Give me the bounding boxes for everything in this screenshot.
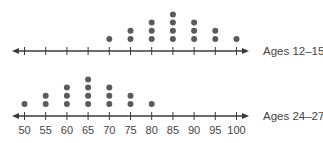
data-dot <box>170 28 176 34</box>
data-dot <box>85 76 91 82</box>
data-dot <box>149 36 155 42</box>
data-dot <box>170 11 176 17</box>
left-arrow-icon <box>12 48 19 54</box>
data-dot <box>64 85 70 91</box>
tick-label: 70 <box>103 124 115 136</box>
data-dot <box>128 101 134 107</box>
data-dot <box>106 93 112 99</box>
data-dot <box>191 20 197 26</box>
data-dot <box>212 28 218 34</box>
right-arrow-icon <box>242 113 249 119</box>
data-dot <box>170 36 176 42</box>
tick-label: 80 <box>146 124 158 136</box>
tick-label: 55 <box>40 124 52 136</box>
data-dot <box>106 36 112 42</box>
data-dot <box>191 36 197 42</box>
series-label: Ages 12–15 <box>263 45 323 57</box>
tick-label: 65 <box>82 124 94 136</box>
series-label: Ages 24–27 <box>263 110 323 122</box>
tick-label: 90 <box>188 124 200 136</box>
data-dot <box>43 93 49 99</box>
data-dot <box>149 20 155 26</box>
dot-plot-ages-24-27: Ages 24–27 <box>12 76 323 122</box>
tick-label: 100 <box>227 124 245 136</box>
data-dot <box>64 101 70 107</box>
data-dot <box>128 28 134 34</box>
dot-plot-chart: Ages 12–15Ages 24–2750556065707580859095… <box>0 0 323 143</box>
right-arrow-icon <box>242 48 249 54</box>
data-dot <box>43 101 49 107</box>
dot-plot-ages-12-15: Ages 12–15 <box>12 11 323 57</box>
x-axis-tick-labels: 50556065707580859095100 <box>18 124 245 136</box>
left-arrow-icon <box>12 113 19 119</box>
data-dot <box>22 101 28 107</box>
data-dot <box>212 36 218 42</box>
data-dot <box>106 85 112 91</box>
data-dot <box>85 101 91 107</box>
data-dot <box>106 101 112 107</box>
data-dot <box>149 101 155 107</box>
tick-label: 95 <box>209 124 221 136</box>
data-dot <box>85 85 91 91</box>
data-dot <box>234 36 240 42</box>
data-dot <box>128 93 134 99</box>
data-dot <box>191 28 197 34</box>
data-dot <box>149 28 155 34</box>
data-dot <box>170 20 176 26</box>
data-dot <box>85 93 91 99</box>
tick-label: 50 <box>18 124 30 136</box>
data-dot <box>128 36 134 42</box>
tick-label: 75 <box>124 124 136 136</box>
tick-label: 60 <box>61 124 73 136</box>
data-dot <box>64 93 70 99</box>
tick-label: 85 <box>167 124 179 136</box>
